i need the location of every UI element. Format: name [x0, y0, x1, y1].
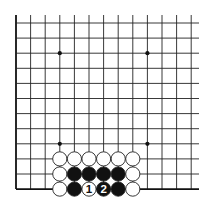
white-stone[interactable] — [111, 152, 125, 166]
stones-layer: 12 — [53, 152, 140, 196]
stone-circle — [97, 152, 111, 166]
white-stone[interactable] — [126, 182, 140, 196]
black-stone[interactable] — [111, 167, 125, 181]
star-point-icon — [58, 142, 62, 146]
white-stone[interactable] — [53, 182, 67, 196]
white-stone[interactable] — [53, 167, 67, 181]
black-stone[interactable] — [67, 167, 81, 181]
star-point-icon — [145, 142, 149, 146]
stone-circle — [82, 167, 96, 181]
move-number-label: 2 — [100, 183, 106, 195]
white-stone[interactable] — [126, 167, 140, 181]
stone-circle — [126, 182, 140, 196]
black-stone[interactable] — [111, 182, 125, 196]
stone-circle — [67, 167, 81, 181]
black-stone[interactable] — [97, 167, 111, 181]
stone-circle — [67, 182, 81, 196]
black-stone[interactable] — [82, 167, 96, 181]
stone-circle — [126, 152, 140, 166]
white-stone[interactable] — [126, 152, 140, 166]
stone-circle — [111, 182, 125, 196]
white-stone[interactable] — [82, 152, 96, 166]
move-number-label: 1 — [86, 183, 93, 195]
black-stone[interactable] — [67, 182, 81, 196]
black-stone[interactable]: 2 — [97, 182, 111, 196]
stone-circle — [53, 152, 67, 166]
white-stone[interactable] — [97, 152, 111, 166]
stone-circle — [67, 152, 81, 166]
go-board[interactable]: 12 — [0, 0, 208, 207]
stone-circle — [111, 167, 125, 181]
star-point-icon — [58, 51, 62, 55]
stone-circle — [126, 167, 140, 181]
white-stone[interactable] — [67, 152, 81, 166]
stone-circle — [82, 152, 96, 166]
stone-circle — [53, 167, 67, 181]
stone-circle — [97, 167, 111, 181]
star-point-icon — [145, 51, 149, 55]
stone-circle — [53, 182, 67, 196]
white-stone[interactable]: 1 — [82, 182, 96, 196]
white-stone[interactable] — [53, 152, 67, 166]
stone-circle — [111, 152, 125, 166]
